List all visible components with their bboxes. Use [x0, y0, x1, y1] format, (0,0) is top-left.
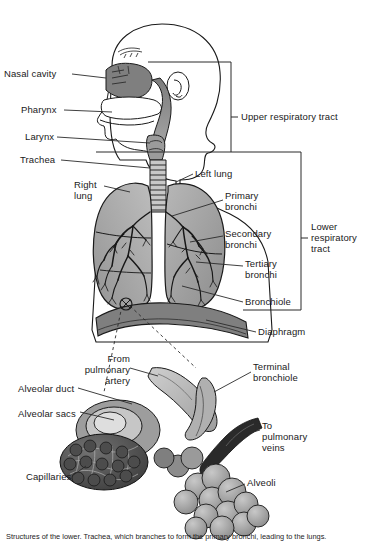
respiratory-system-figure: Nasal cavity Pharynx Larynx Trachea Righ… — [0, 0, 376, 542]
label-capillaries: Capillaries — [26, 471, 71, 482]
label-alveolar-duct: Alveolar duct — [18, 383, 74, 394]
label-larynx: Larynx — [25, 131, 54, 142]
label-primary-bronchi: Primary bronchi — [225, 190, 258, 212]
figure-caption: Structures of the lower. Trachea, which … — [6, 532, 370, 542]
anatomical-illustration — [0, 0, 376, 542]
trachea-structure — [150, 160, 166, 212]
larynx-structure — [147, 135, 165, 160]
label-right-lung: Right lung — [74, 179, 97, 201]
label-pharynx: Pharynx — [21, 104, 57, 115]
label-diaphragm: Diaphragm — [258, 326, 305, 337]
label-lower-respiratory-tract: Lower respiratory tract — [311, 221, 376, 254]
alveoli-cluster-upper — [154, 447, 203, 477]
label-alveoli: Alveoli — [247, 477, 276, 488]
alveoli-cluster — [174, 464, 269, 540]
label-left-lung: Left lung — [195, 168, 232, 179]
label-secondary-bronchi: Secondary bronchi — [225, 228, 271, 250]
nasal-cavity-structure — [106, 63, 152, 98]
label-terminal-bronchiole: Terminal bronchiole — [253, 361, 298, 383]
capillary-network — [60, 434, 148, 490]
label-trachea: Trachea — [20, 154, 55, 165]
label-nasal-cavity: Nasal cavity — [4, 68, 56, 79]
label-from-pulmonary-artery: From pulmonary artery — [56, 353, 130, 386]
label-to-pulmonary-veins: To pulmonary veins — [262, 420, 307, 453]
label-bronchiole: Bronchiole — [245, 296, 291, 307]
label-upper-respiratory-tract: Upper respiratory tract — [241, 111, 338, 122]
label-alveolar-sacs: Alveolar sacs — [18, 408, 76, 419]
label-tertiary-bronchi: Tertiary bronchi — [245, 258, 277, 280]
